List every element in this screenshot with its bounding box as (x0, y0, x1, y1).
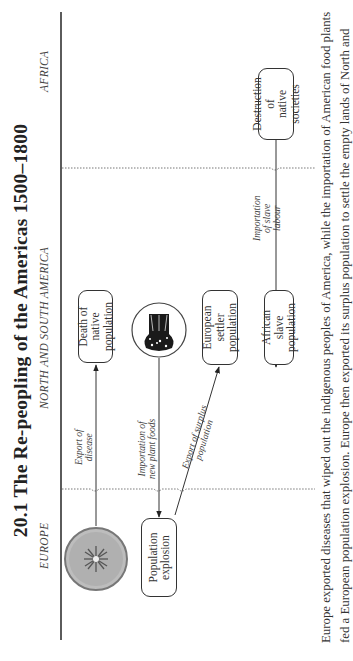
virus-icon (65, 528, 127, 590)
caption-line: fed a European population explosion. Eur… (336, 0, 353, 643)
import-slave-labour-label: Importation of slave labour (252, 196, 282, 241)
box-text: African (260, 303, 273, 352)
destruction-native-societies-box: Destruction of native societies (258, 68, 294, 140)
region-label-americas: NORTH AND SOUTH AMERICA (38, 247, 50, 409)
figure-caption: Europe exported diseases that wiped out … (317, 0, 353, 643)
box-text: native (89, 302, 102, 351)
box-text: native societies (276, 71, 301, 137)
caption-line: Europe exported diseases that wiped out … (317, 0, 336, 643)
box-text: explosion (159, 533, 172, 583)
box-text: population (285, 303, 298, 352)
label-text: labour (272, 196, 282, 241)
box-text: settler (214, 303, 227, 352)
label-text: Export of (74, 429, 84, 465)
export-disease-label: Export of disease (74, 429, 94, 465)
diagram-page: 20.1 The Re-peopling of the Americas 150… (0, 0, 353, 661)
box-text: European (201, 303, 214, 352)
import-plant-foods-label: Importation of new plant foods (137, 419, 157, 479)
population-explosion-box: Population explosion (141, 518, 177, 597)
box-text: population (226, 303, 239, 352)
european-settler-population-box: European settler population (202, 290, 238, 365)
label-text: Importation of (137, 419, 147, 479)
europe-americas-separator (62, 489, 315, 491)
wheat-sheaf-icon (132, 303, 186, 357)
box-text: slave (273, 303, 286, 352)
box-text: of (264, 71, 277, 137)
region-label-europe: EUROPE (38, 522, 50, 569)
label-text: of slave (262, 196, 272, 241)
box-text: population (102, 302, 115, 351)
americas-africa-separator (62, 168, 315, 170)
box-text: Death of (77, 302, 90, 351)
african-slave-population-box: African slave population (264, 290, 294, 365)
label-text: disease (84, 429, 94, 465)
label-text: new plant foods (147, 419, 157, 479)
box-text: Destruction (251, 71, 264, 137)
box-text: Population (147, 533, 160, 583)
region-label-africa: AFRICA (38, 51, 50, 92)
label-text: Importation (252, 196, 262, 241)
death-native-population-box: Death of native population (78, 290, 113, 363)
